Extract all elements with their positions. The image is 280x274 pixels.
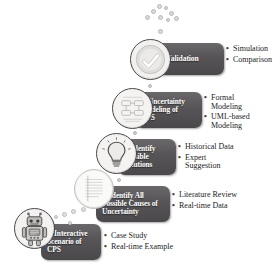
bullet-marker: •	[104, 232, 109, 240]
document-list-icon	[74, 169, 114, 209]
connector-dot-2-3	[117, 178, 121, 182]
robot-icon	[14, 208, 55, 249]
formal-model-icon	[112, 88, 153, 129]
trail-dot	[68, 221, 72, 225]
bullet-item: • Real-time Example	[104, 243, 200, 252]
bullet-marker: •	[104, 243, 109, 251]
connector-dot-3-4	[133, 131, 137, 135]
trail-dot	[54, 215, 58, 219]
trail-dot	[71, 209, 76, 214]
bullet-label: Case Study	[111, 232, 147, 241]
step-1-bullets: • Case Study • Real-time Example	[104, 232, 200, 253]
diagram-canvas: 5. Validation • Simulation • Comparison	[0, 0, 280, 274]
connector-dot-4-5	[148, 84, 152, 88]
lightbulb-icon	[96, 133, 137, 174]
trail-dot	[62, 212, 67, 217]
trail-dot	[81, 207, 86, 212]
bullet-label: Real-time Example	[111, 243, 173, 252]
check-circle-icon	[130, 39, 171, 80]
bullet-item: • Case Study	[104, 232, 200, 241]
